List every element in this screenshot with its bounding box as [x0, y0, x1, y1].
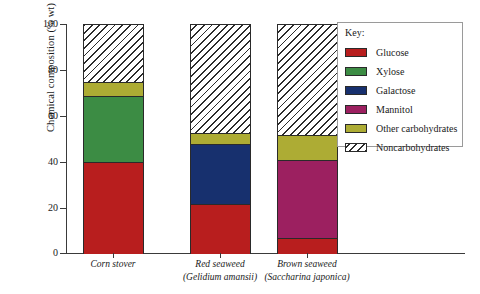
y-tick-label-60: 60	[48, 110, 58, 121]
bar-brown-seaweed	[277, 24, 338, 254]
legend-item-galactose: Galactose	[345, 83, 415, 97]
legend-label-xylose: Xylose	[376, 66, 404, 77]
chart-legend: Key: Glucose Xylose Galactose Mannitol O…	[337, 22, 463, 147]
legend-label-mannitol: Mannitol	[376, 104, 413, 115]
segment-mannitol	[278, 160, 337, 238]
y-tick-20	[60, 208, 66, 209]
y-tick-label-80: 80	[48, 64, 58, 75]
legend-swatch-galactose-icon	[345, 86, 367, 95]
y-tick-40	[60, 162, 66, 163]
legend-title: Key:	[345, 27, 364, 38]
segment-noncarbohydrates	[191, 25, 250, 133]
legend-label-galactose: Galactose	[376, 85, 415, 96]
segment-noncarbohydrates	[84, 25, 143, 82]
legend-item-glucose: Glucose	[345, 45, 409, 59]
segment-xylose	[84, 96, 143, 162]
segment-glucose	[278, 238, 337, 254]
y-tick-label-0: 0	[53, 247, 58, 258]
y-tick-100	[60, 24, 66, 25]
legend-swatch-xylose-icon	[345, 67, 367, 76]
y-tick-label-100: 100	[43, 18, 58, 29]
legend-label-other-carbohydrates: Other carbohydrates	[376, 123, 457, 134]
segment-other-carbohydrates	[278, 135, 337, 160]
x-label-corn-stover-line1: Corn stover	[90, 259, 135, 269]
legend-item-mannitol: Mannitol	[345, 102, 413, 116]
legend-label-noncarbohydrates: Noncarbohydrates	[376, 142, 449, 153]
y-tick-60	[60, 116, 66, 117]
segment-glucose	[191, 204, 250, 254]
y-tick-80	[60, 70, 66, 71]
legend-swatch-noncarbohydrates-icon	[345, 143, 367, 152]
segment-galactose	[191, 144, 250, 204]
legend-item-xylose: Xylose	[345, 64, 404, 78]
bar-corn-stover	[83, 24, 144, 254]
legend-item-noncarbohydrates: Noncarbohydrates	[345, 140, 449, 154]
segment-other-carbohydrates	[191, 133, 250, 144]
x-label-brown-seaweed: Brown seaweed (Saccharina japonica)	[232, 258, 382, 283]
legend-swatch-mannitol-icon	[345, 105, 367, 114]
y-tick-label-20: 20	[48, 202, 58, 213]
legend-swatch-glucose-icon	[345, 48, 367, 57]
segment-glucose	[84, 162, 143, 254]
segment-noncarbohydrates	[278, 25, 337, 135]
y-tick-label-40: 40	[48, 156, 58, 167]
legend-label-glucose: Glucose	[376, 47, 409, 58]
bar-red-seaweed	[190, 24, 251, 254]
x-label-brown-seaweed-line1: Brown seaweed	[277, 259, 337, 269]
segment-other-carbohydrates	[84, 82, 143, 96]
x-label-brown-seaweed-line2: (Saccharina japonica)	[232, 271, 382, 284]
stacked-bar-chart: Chemical composition (% wt) 100 80 60 40…	[0, 0, 480, 294]
legend-swatch-other-carbohydrates-icon	[345, 124, 367, 133]
legend-item-other-carbohydrates: Other carbohydrates	[345, 121, 457, 135]
y-axis-line	[66, 24, 67, 254]
